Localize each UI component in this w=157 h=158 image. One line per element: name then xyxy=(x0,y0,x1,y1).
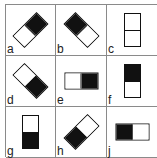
cell-label: d xyxy=(7,94,14,106)
domino-top-half xyxy=(82,74,98,89)
cell-j[interactable]: j xyxy=(107,107,157,158)
cell-label: c xyxy=(108,43,114,55)
domino-bottom-half xyxy=(65,74,82,89)
domino-icon xyxy=(115,124,149,141)
cell-label: a xyxy=(7,43,14,55)
cell-f[interactable]: f xyxy=(107,56,157,107)
cell-a[interactable]: a xyxy=(6,5,56,56)
cell-b[interactable]: b xyxy=(56,5,107,56)
domino-puzzle-grid: a b c d e f xyxy=(5,4,157,157)
domino-icon xyxy=(63,12,99,48)
cell-label: f xyxy=(108,94,111,106)
domino-icon xyxy=(124,13,141,47)
cell-e[interactable]: e xyxy=(56,56,107,107)
domino-top-half xyxy=(125,65,140,81)
domino-icon xyxy=(12,12,48,48)
domino-top-half xyxy=(23,116,38,132)
cell-label: h xyxy=(57,145,64,157)
domino-icon xyxy=(22,115,39,149)
domino-icon xyxy=(12,63,48,99)
domino-bottom-half xyxy=(116,125,133,140)
domino-bottom-half xyxy=(23,132,38,149)
domino-top-half xyxy=(125,14,140,30)
domino-icon xyxy=(63,114,99,150)
cell-g[interactable]: g xyxy=(6,107,56,158)
domino-bottom-half xyxy=(125,30,140,47)
cell-label: g xyxy=(7,145,14,157)
domino-icon xyxy=(64,73,98,90)
cell-c[interactable]: c xyxy=(107,5,157,56)
domino-top-half xyxy=(133,125,149,140)
cell-label: e xyxy=(57,94,64,106)
domino-icon xyxy=(124,64,141,98)
cell-h[interactable]: h xyxy=(56,107,107,158)
domino-bottom-half xyxy=(125,81,140,98)
cell-label: j xyxy=(108,145,111,157)
cell-d[interactable]: d xyxy=(6,56,56,107)
cell-label: b xyxy=(57,43,64,55)
